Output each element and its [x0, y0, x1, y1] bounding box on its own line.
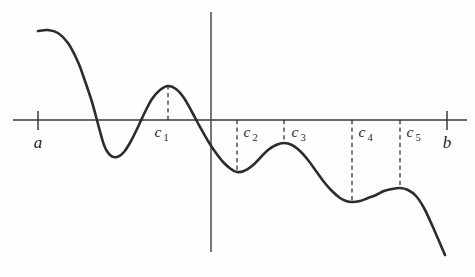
label-c4-base: c — [359, 123, 366, 140]
label-a: a — [34, 133, 43, 152]
label-c2-base: c — [244, 123, 251, 140]
critical-points-figure: a b c 1 c 2 c 3 c 4 c 5 — [0, 0, 475, 277]
label-c5-base: c — [407, 123, 414, 140]
label-c1-sub: 1 — [163, 132, 168, 143]
function-graph-svg: a b c 1 c 2 c 3 c 4 c 5 — [0, 0, 475, 277]
label-c5-sub: 5 — [415, 132, 420, 143]
label-c3-base: c — [292, 123, 299, 140]
label-b: b — [443, 133, 452, 152]
label-c4-sub: 4 — [367, 132, 373, 143]
label-c1-base: c — [155, 123, 162, 140]
label-c3-sub: 3 — [300, 132, 305, 143]
label-c2-sub: 2 — [252, 132, 257, 143]
